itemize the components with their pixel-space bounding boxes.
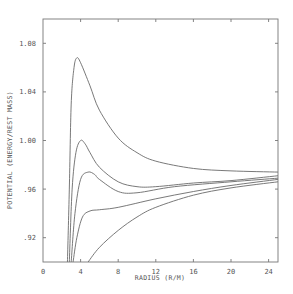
curve-4-line (73, 179, 278, 262)
potential-chart: 04812162024 .92.961.001.041.08 RADIUS (R… (0, 0, 293, 294)
x-axis-label: RADIUS (R/M) (135, 274, 186, 282)
y-tick-label: 1.00 (19, 137, 36, 145)
x-tick-label: 20 (227, 268, 235, 276)
y-axis-label: POTENTIAL (ENERGY/REST MASS) (6, 91, 14, 209)
x-tick-label: 0 (41, 268, 45, 276)
y-tick-label: 1.04 (19, 88, 36, 96)
y-tick-label: .92 (23, 234, 36, 242)
plot-frame (43, 19, 278, 262)
y-tick-label: 1.08 (19, 40, 36, 48)
x-tick-label: 4 (78, 268, 82, 276)
y-tick-label: .96 (23, 186, 36, 194)
potential-curves (67, 58, 278, 262)
x-axis-ticks: 04812162024 (41, 19, 273, 276)
x-tick-label: 8 (116, 268, 120, 276)
curve-1-line (67, 58, 278, 262)
x-tick-label: 16 (189, 268, 197, 276)
y-axis-ticks: .92.961.001.041.08 (19, 40, 278, 242)
x-tick-label: 24 (264, 268, 272, 276)
